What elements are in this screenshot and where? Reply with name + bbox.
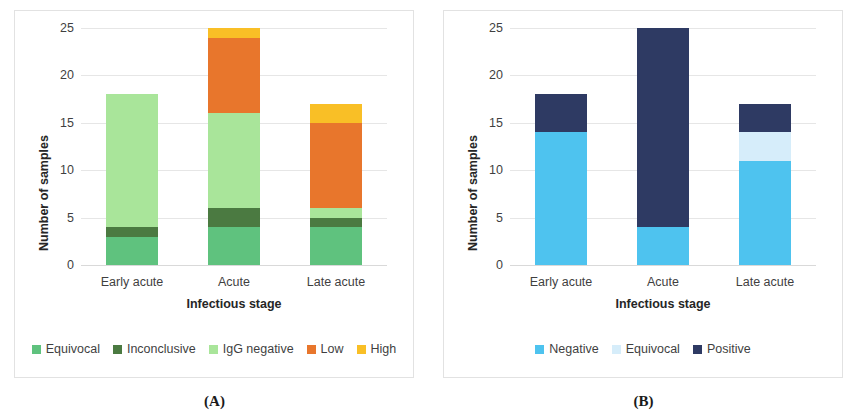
- x-tick-label: Late acute: [307, 275, 365, 289]
- gridline-0: 0: [510, 265, 816, 266]
- panel-a-x-axis-title: Infectious stage: [186, 297, 281, 311]
- legend-item[interactable]: Negative: [535, 342, 598, 356]
- panel-a-caption: (A): [0, 393, 429, 410]
- y-tick-label: 25: [489, 21, 510, 35]
- legend-swatch-icon: [113, 345, 122, 354]
- bar-segment: [208, 38, 260, 114]
- panel-b-x-axis-title: Infectious stage: [615, 297, 710, 311]
- bar-segment: [535, 132, 587, 265]
- bar-segment: [535, 94, 587, 132]
- legend-swatch-icon: [209, 345, 218, 354]
- bar-segment: [739, 161, 791, 265]
- y-tick-label: 20: [60, 68, 81, 82]
- legend-swatch-icon: [535, 345, 544, 354]
- legend-item[interactable]: IgG negative: [209, 342, 294, 356]
- bar-b-0: [535, 94, 587, 265]
- legend-swatch-icon: [693, 345, 702, 354]
- bar-segment: [208, 28, 260, 37]
- bar-segment: [310, 218, 362, 227]
- bar-b-1: [637, 28, 689, 265]
- y-tick-label: 15: [60, 116, 81, 130]
- legend-item[interactable]: Positive: [693, 342, 751, 356]
- legend-label: High: [371, 342, 397, 356]
- bar-segment: [310, 104, 362, 123]
- panel-a-plot-box: 2520151050 Early acuteAcuteLate acute In…: [81, 28, 387, 265]
- y-tick-label: 25: [60, 21, 81, 35]
- legend-swatch-icon: [357, 345, 366, 354]
- legend-item[interactable]: High: [357, 342, 397, 356]
- legend-item[interactable]: Inconclusive: [113, 342, 196, 356]
- bar-segment: [637, 227, 689, 265]
- x-tick-label: Early acute: [101, 275, 164, 289]
- panel-b-plot-box: 2520151050 Early acuteAcuteLate acute In…: [510, 28, 816, 265]
- legend-label: Low: [321, 342, 344, 356]
- bar-segment: [739, 104, 791, 132]
- bar-segment: [310, 123, 362, 208]
- panel-a-legend: EquivocalInconclusiveIgG negativeLowHigh: [15, 342, 413, 356]
- panel-a: Number of samples 2520151050 Early acute…: [0, 0, 429, 414]
- bar-segment: [310, 227, 362, 265]
- bar-segment: [208, 113, 260, 208]
- x-tick-label: Late acute: [736, 275, 794, 289]
- legend-item[interactable]: Equivocal: [32, 342, 100, 356]
- x-tick-label: Acute: [647, 275, 679, 289]
- y-tick-label: 5: [67, 211, 81, 225]
- y-tick-label: 10: [489, 163, 510, 177]
- legend-swatch-icon: [612, 345, 621, 354]
- bar-a-2: [310, 104, 362, 265]
- bar-segment: [106, 227, 158, 236]
- y-tick-label: 15: [489, 116, 510, 130]
- y-tick-label: 20: [489, 68, 510, 82]
- y-tick-label: 5: [496, 211, 510, 225]
- bar-segment: [208, 227, 260, 265]
- bar-segment: [739, 132, 791, 160]
- bar-b-2: [739, 104, 791, 265]
- legend-swatch-icon: [32, 345, 41, 354]
- legend-label: Equivocal: [626, 342, 680, 356]
- bar-segment: [310, 208, 362, 217]
- legend-swatch-icon: [307, 345, 316, 354]
- bar-segment: [106, 94, 158, 227]
- panel-a-frame: Number of samples 2520151050 Early acute…: [14, 10, 414, 378]
- legend-label: Positive: [707, 342, 751, 356]
- panel-a-y-axis-title: Number of samples: [37, 123, 51, 263]
- stacked-bar-figure: Number of samples 2520151050 Early acute…: [0, 0, 858, 414]
- panel-b-legend: NegativeEquivocalPositive: [444, 342, 842, 356]
- legend-item[interactable]: Equivocal: [612, 342, 680, 356]
- bar-a-1: [208, 28, 260, 265]
- panel-b-frame: Number of samples 2520151050 Early acute…: [443, 10, 843, 378]
- y-tick-label: 0: [67, 258, 81, 272]
- panel-b-y-axis-title: Number of samples: [466, 123, 480, 263]
- bar-segment: [106, 237, 158, 265]
- bar-segment: [637, 28, 689, 227]
- gridline-0: 0: [81, 265, 387, 266]
- legend-item[interactable]: Low: [307, 342, 344, 356]
- legend-label: Inconclusive: [127, 342, 196, 356]
- x-tick-label: Acute: [218, 275, 250, 289]
- x-tick-label: Early acute: [530, 275, 593, 289]
- panel-b: Number of samples 2520151050 Early acute…: [429, 0, 858, 414]
- legend-label: Equivocal: [46, 342, 100, 356]
- bar-a-0: [106, 94, 158, 265]
- panel-a-plot-area: Number of samples 2520151050 Early acute…: [15, 11, 413, 377]
- bar-segment: [208, 208, 260, 227]
- legend-label: Negative: [549, 342, 598, 356]
- legend-label: IgG negative: [223, 342, 294, 356]
- y-tick-label: 10: [60, 163, 81, 177]
- panel-b-caption: (B): [429, 393, 858, 410]
- y-tick-label: 0: [496, 258, 510, 272]
- panel-b-plot-area: Number of samples 2520151050 Early acute…: [444, 11, 842, 377]
